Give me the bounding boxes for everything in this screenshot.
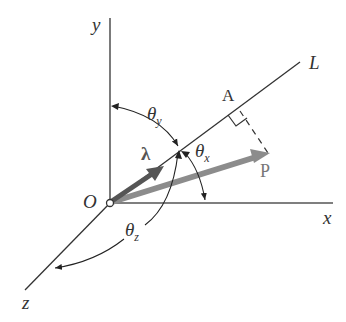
x-axis-label: x <box>322 207 332 228</box>
projection-dashed-line <box>240 111 268 153</box>
vector-p <box>112 157 256 202</box>
y-axis-label: y <box>90 14 101 35</box>
z-axis-label: z <box>21 292 30 313</box>
diagram-canvas: y x z O L A P λ θy θx θz <box>0 0 346 322</box>
z-axis <box>25 203 110 290</box>
line-l-label: L <box>308 52 320 73</box>
origin-label: O <box>83 191 97 212</box>
vector-p-label: P <box>260 161 270 181</box>
theta-y-arc <box>113 106 178 146</box>
theta-z-arc-lower <box>55 239 124 268</box>
unit-vector-lambda-label: λ <box>141 143 151 164</box>
theta-y-label: θy <box>147 103 162 128</box>
right-angle-marker <box>228 115 247 126</box>
theta-z-label: θz <box>125 219 139 244</box>
point-a-label: A <box>222 86 235 105</box>
theta-x-label: θx <box>195 140 210 165</box>
origin-point <box>107 200 114 207</box>
theta-y-arc-start-arrow <box>111 103 119 110</box>
direction-angles-diagram: y x z O L A P λ θy θx θz <box>0 0 346 322</box>
